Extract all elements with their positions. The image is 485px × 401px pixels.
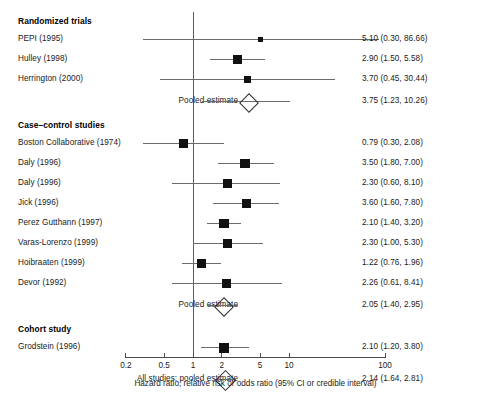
study-label: Varas-Lorenzo (1999) bbox=[18, 238, 98, 247]
point-estimate-marker bbox=[219, 343, 229, 353]
effect-value-label: 0.79 (0.30, 2.08) bbox=[362, 138, 423, 147]
axis-tick bbox=[221, 353, 222, 357]
point-estimate-marker bbox=[219, 219, 229, 229]
section-heading: Case–control studies bbox=[18, 120, 105, 130]
section-heading: Randomized trials bbox=[18, 16, 92, 26]
study-label: Hulley (1998) bbox=[18, 54, 67, 63]
effect-value-label: 2.26 (0.61, 8.41) bbox=[362, 278, 423, 287]
effect-value-label: 5.10 (0.30, 86.66) bbox=[362, 34, 428, 43]
effect-value-label: 1.22 (0.76, 1.96) bbox=[362, 258, 423, 267]
effect-value-label: 3.75 (1.23, 10.26) bbox=[362, 96, 428, 105]
pooled-estimate-label: Pooled estimate bbox=[0, 300, 238, 309]
study-label: Daly (1996) bbox=[18, 178, 61, 187]
point-estimate-marker bbox=[258, 37, 263, 42]
point-estimate-marker bbox=[233, 55, 242, 64]
forest-plot: Randomized trialsPEPI (1995)5.10 (0.30, … bbox=[0, 0, 485, 401]
axis-tick-label: 2 bbox=[220, 361, 225, 370]
point-estimate-marker bbox=[242, 199, 252, 209]
axis-tick bbox=[385, 353, 386, 357]
axis-tick-label: 0.5 bbox=[158, 361, 169, 370]
point-estimate-marker bbox=[179, 139, 188, 148]
section-heading: Cohort study bbox=[18, 324, 71, 334]
effect-value-label: 2.10 (1.20, 3.80) bbox=[362, 342, 423, 351]
effect-value-label: 3.60 (1.60, 7.80) bbox=[362, 198, 423, 207]
study-label: Grodstein (1996) bbox=[18, 342, 80, 351]
effect-value-label: 2.10 (1.40, 3.20) bbox=[362, 218, 423, 227]
x-axis-title: Hazard ratio, relative risk or odds rati… bbox=[134, 379, 376, 388]
axis-tick-label: 1 bbox=[191, 361, 196, 370]
axis-tick bbox=[289, 353, 290, 357]
effect-value-label: 2.30 (1.00, 5.30) bbox=[362, 238, 423, 247]
point-estimate-marker bbox=[222, 279, 231, 288]
point-estimate-marker bbox=[197, 259, 207, 269]
point-estimate-marker bbox=[223, 179, 232, 188]
point-estimate-marker bbox=[223, 239, 233, 249]
axis-tick-label: 5 bbox=[258, 361, 263, 370]
effect-value-label: 3.50 (1.80, 7.00) bbox=[362, 158, 423, 167]
study-label: PEPI (1995) bbox=[18, 34, 63, 43]
point-estimate-marker bbox=[244, 76, 251, 83]
study-label: Devor (1992) bbox=[18, 278, 66, 287]
study-label: Perez Gutthann (1997) bbox=[18, 218, 102, 227]
axis-tick-label: 10 bbox=[284, 361, 293, 370]
study-label: Jick (1996) bbox=[18, 198, 59, 207]
effect-value-label: 2.90 (1.50, 5.58) bbox=[362, 54, 423, 63]
axis-tick bbox=[260, 353, 261, 357]
axis-tick bbox=[164, 353, 165, 357]
point-estimate-marker bbox=[240, 159, 250, 169]
study-label: Boston Collaborative (1974) bbox=[18, 138, 121, 147]
study-label: Daly (1996) bbox=[18, 158, 61, 167]
pooled-estimate-diamond bbox=[239, 93, 259, 113]
axis-tick bbox=[193, 353, 194, 357]
axis-tick-label: 100 bbox=[378, 361, 392, 370]
study-label: Hoibraaten (1999) bbox=[18, 258, 85, 267]
effect-value-label: 2.05 (1.40, 2.95) bbox=[362, 300, 423, 309]
axis-tick-label: 0.2 bbox=[120, 361, 131, 370]
x-axis-line bbox=[125, 357, 386, 358]
study-label: Herrington (2000) bbox=[18, 74, 83, 83]
effect-value-label: 3.70 (0.45, 30.44) bbox=[362, 74, 428, 83]
effect-value-label: 2.30 (0.60, 8.10) bbox=[362, 178, 423, 187]
axis-tick bbox=[125, 353, 126, 357]
